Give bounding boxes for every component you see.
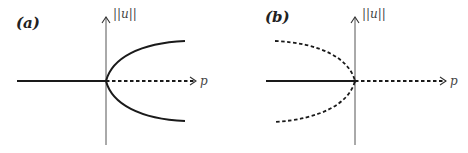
x-axis-label: p bbox=[450, 74, 458, 88]
y-axis-label: ||u|| bbox=[362, 7, 386, 21]
panel-a: (a) ||u|| p bbox=[16, 7, 208, 145]
panel-a-label: (a) bbox=[16, 14, 40, 32]
bifurcation-diagram: (a) ||u|| p (b) ||u|| p bbox=[0, 0, 468, 153]
panel-b-label: (b) bbox=[265, 8, 290, 26]
panel-b: (b) ||u|| p bbox=[265, 7, 458, 145]
y-axis-label: ||u|| bbox=[113, 7, 137, 21]
bifurcation-point bbox=[353, 79, 356, 82]
x-axis-label: p bbox=[200, 74, 208, 88]
